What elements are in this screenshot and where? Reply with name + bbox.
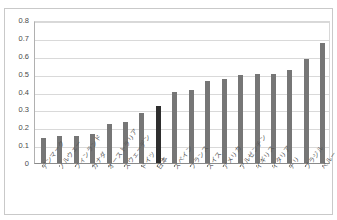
y-axis-tick-label: 0.2 bbox=[19, 125, 29, 133]
bar bbox=[304, 59, 309, 163]
y-axis-tick-label: 0.1 bbox=[19, 142, 29, 150]
bar bbox=[107, 124, 112, 163]
y-axis-tick-label: 0.7 bbox=[19, 35, 29, 43]
y-axis-tick-label: 0.8 bbox=[19, 17, 29, 25]
chart-screenshot: 0.80.70.60.50.40.30.20.10 デンマークノルウェーフィンラ… bbox=[0, 0, 337, 220]
bar bbox=[222, 79, 227, 163]
y-axis-tick-label: 0.4 bbox=[19, 89, 29, 97]
y-axis-tick-label: 0.5 bbox=[19, 71, 29, 79]
y-axis-tick-label: 0.3 bbox=[19, 107, 29, 115]
chart-title-strip bbox=[0, 0, 337, 7]
chart-frame: 0.80.70.60.50.40.30.20.10 デンマークノルウェーフィンラ… bbox=[4, 8, 333, 215]
bar bbox=[172, 92, 177, 164]
y-axis-labels: 0.80.70.60.50.40.30.20.10 bbox=[5, 21, 32, 164]
y-axis-tick-label: 0 bbox=[25, 160, 29, 168]
x-axis-labels: デンマークノルウェーフィンランドカナダオーストラリアスウェーデンドイツ日本スペイ… bbox=[34, 165, 330, 215]
y-axis-tick-label: 0.6 bbox=[19, 53, 29, 61]
